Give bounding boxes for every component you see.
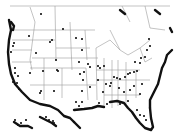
location-marker	[143, 115, 145, 117]
location-marker	[140, 57, 142, 59]
location-marker	[110, 82, 112, 84]
location-marker	[109, 85, 111, 87]
location-marker	[51, 39, 53, 41]
location-marker	[136, 109, 138, 111]
location-marker	[127, 73, 129, 75]
location-marker	[81, 49, 83, 51]
location-marker	[87, 63, 89, 65]
location-marker	[20, 122, 22, 124]
location-marker	[75, 101, 77, 103]
location-marker	[81, 38, 83, 40]
location-marker	[89, 86, 91, 88]
location-marker	[62, 28, 64, 30]
location-marker	[116, 77, 118, 79]
location-marker	[49, 41, 51, 43]
location-marker	[13, 42, 15, 44]
location-marker	[134, 61, 136, 63]
location-marker	[123, 91, 125, 93]
location-marker	[113, 76, 115, 78]
location-marker	[40, 13, 42, 15]
location-marker	[124, 76, 126, 78]
location-marker	[12, 45, 14, 47]
us-map	[0, 0, 183, 137]
location-marker	[82, 79, 84, 81]
location-marker	[148, 38, 150, 40]
location-marker	[53, 122, 55, 124]
location-marker	[118, 87, 120, 89]
location-marker	[79, 73, 81, 75]
location-marker	[17, 75, 19, 77]
location-marker	[144, 56, 146, 58]
location-marker	[28, 35, 30, 37]
location-marker	[39, 92, 41, 94]
location-marker	[78, 105, 80, 107]
location-marker	[12, 81, 14, 83]
state-borders	[10, 6, 170, 108]
location-marker	[127, 100, 129, 102]
location-marker	[75, 37, 77, 39]
location-marker	[16, 82, 18, 84]
location-marker	[141, 83, 143, 85]
location-marker	[136, 70, 138, 72]
location-marker	[129, 89, 131, 91]
location-marker	[48, 119, 50, 121]
location-marker	[14, 119, 16, 121]
location-marker	[81, 101, 83, 103]
location-marker	[81, 90, 83, 92]
location-marker	[133, 85, 135, 87]
location-marker	[97, 79, 99, 81]
coastlines	[8, 10, 172, 130]
location-marker	[99, 67, 101, 69]
location-marker	[139, 114, 141, 116]
location-marker	[133, 71, 135, 73]
location-marker	[78, 61, 80, 63]
location-marker	[45, 116, 47, 118]
location-marker	[14, 72, 16, 74]
location-marker	[149, 45, 151, 47]
location-marker	[10, 51, 12, 53]
location-marker	[14, 67, 16, 69]
location-marker	[146, 49, 148, 51]
location-marker	[52, 120, 54, 122]
location-marker	[129, 72, 131, 74]
location-marker	[25, 119, 27, 121]
location-marker	[145, 119, 147, 121]
location-marker	[53, 90, 55, 92]
location-marker	[89, 66, 91, 68]
location-marker	[40, 90, 42, 92]
location-marker	[105, 83, 107, 85]
location-marker	[139, 93, 141, 95]
location-marker	[119, 78, 121, 80]
location-marker	[18, 88, 20, 90]
location-marker	[35, 52, 37, 54]
location-marker	[56, 69, 58, 71]
location-marker	[119, 103, 121, 105]
location-marker	[98, 102, 100, 104]
location-marker	[103, 65, 105, 67]
location-marker	[55, 59, 57, 61]
location-marker	[97, 65, 99, 67]
location-marker	[106, 103, 108, 105]
location-marker	[29, 72, 31, 74]
location-marker	[17, 124, 19, 126]
location-marker	[102, 91, 104, 93]
location-marker	[139, 62, 141, 64]
location-marker	[83, 71, 85, 73]
location-marker	[42, 70, 44, 72]
